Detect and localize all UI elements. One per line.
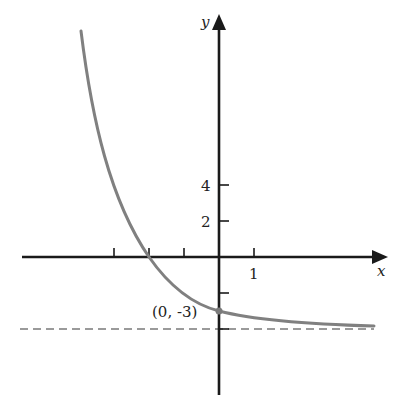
x-axis-label: x	[377, 262, 386, 280]
exponential-graph: y x 1 4 2 (0, -3)	[0, 0, 398, 395]
y-intercept-point	[216, 308, 223, 315]
x-ticks	[114, 248, 254, 257]
y-tick-label-2: 2	[201, 213, 211, 231]
y-tick-label-4: 4	[201, 177, 211, 195]
y-axis-arrow-icon	[212, 14, 226, 30]
point-label: (0, -3)	[152, 303, 197, 321]
exponential-curve	[81, 31, 374, 326]
y-axis-label: y	[200, 13, 210, 31]
x-tick-label-1: 1	[249, 265, 259, 283]
